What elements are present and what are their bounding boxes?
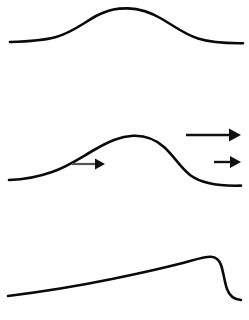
wave-evolution-diagram: Symmetric wave Skewed wave with flow vec… [0, 0, 249, 320]
flow-arrow-crest-head [229, 129, 241, 142]
skewed-wave-curve [9, 136, 241, 186]
symmetric-wave-curve [10, 8, 243, 43]
flow-arrow-trough [214, 156, 241, 168]
flow-arrow-upstream-head [95, 159, 105, 170]
panel-breaking-wave [8, 257, 241, 300]
panel-symmetric-wave [10, 8, 243, 43]
panel-skewed-wave [9, 129, 241, 186]
breaking-wave-curve [8, 257, 241, 300]
flow-arrow-crest [186, 129, 241, 142]
diagram-canvas [0, 0, 249, 320]
flow-arrow-trough-head [230, 156, 241, 168]
